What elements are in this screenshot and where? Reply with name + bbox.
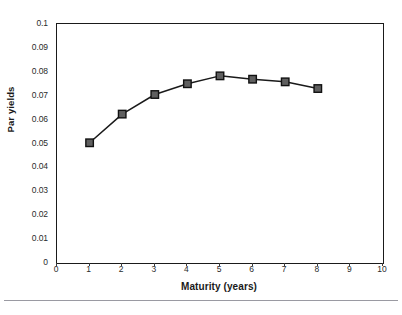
footer-divider: [4, 300, 398, 301]
series-plot: [57, 24, 383, 263]
y-tick-label: 0.09: [32, 42, 48, 52]
data-point-marker: [86, 139, 94, 147]
x-tick-label: 3: [151, 264, 156, 274]
data-point-marker: [151, 91, 159, 99]
y-tick-label: 0: [43, 257, 48, 267]
x-tick-label: 7: [282, 264, 287, 274]
x-tick-label: 5: [217, 264, 222, 274]
par-yields-markers: [86, 72, 322, 146]
x-tick-label: 8: [314, 264, 319, 274]
y-tick-label: 0.06: [32, 114, 48, 124]
data-point-marker: [216, 72, 224, 80]
x-axis-title: Maturity (years): [56, 281, 382, 292]
y-tick-label: 0.03: [32, 185, 48, 195]
x-tick-label: 0: [54, 264, 59, 274]
y-tick-label: 0.08: [32, 66, 48, 76]
data-point-marker: [249, 75, 257, 83]
y-tick-label: 0.05: [32, 138, 48, 148]
y-tick-label: 0.07: [32, 90, 48, 100]
data-point-marker: [281, 78, 289, 86]
chart-figure: Par yields 00.010.020.030.040.050.060.07…: [0, 0, 402, 315]
plot-area: [56, 23, 384, 264]
x-tick-label: 4: [184, 264, 189, 274]
y-axis-tick-labels: 00.010.020.030.040.050.060.070.080.090.1: [0, 23, 52, 262]
x-tick-label: 9: [347, 264, 352, 274]
x-tick-label: 1: [86, 264, 91, 274]
data-point-marker: [314, 85, 322, 93]
y-tick-label: 0.02: [32, 209, 48, 219]
x-tick-label: 2: [119, 264, 124, 274]
x-tick-label: 6: [249, 264, 254, 274]
x-axis-tick-labels: 012345678910: [56, 264, 382, 280]
y-tick-label: 0.04: [32, 161, 48, 171]
data-point-marker: [118, 110, 126, 118]
x-tick-label: 10: [377, 264, 386, 274]
data-point-marker: [184, 80, 192, 88]
y-tick-label: 0.01: [32, 233, 48, 243]
y-tick-label: 0.1: [36, 18, 48, 28]
